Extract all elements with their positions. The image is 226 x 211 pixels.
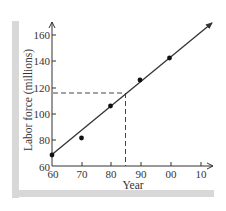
chart: 60 80 100 120 140 160 60 70 80 90 00 10 … [0, 0, 226, 211]
y-tick-label: 80 [39, 134, 51, 146]
y-ticks [52, 35, 56, 140]
y-tick-labels: 60 80 100 120 140 160 [34, 29, 51, 173]
x-axis-title: Year [122, 179, 143, 191]
y-tick-label: 120 [34, 82, 51, 94]
y-axis-title: Labor force (millions) [22, 49, 35, 151]
x-tick-label: 80 [106, 168, 118, 180]
x-ticks [82, 162, 201, 166]
y-tick-label: 140 [34, 55, 51, 67]
data-point-1980 [108, 104, 113, 109]
x-tick-label: 60 [48, 168, 60, 180]
regression-line [52, 23, 212, 155]
y-tick-label: 160 [34, 29, 51, 41]
y-tick-label: 100 [34, 108, 51, 120]
x-tick-label: 70 [77, 168, 89, 180]
data-point-1970 [79, 136, 84, 141]
data-point-1990 [138, 78, 143, 83]
data-point-1960 [50, 153, 55, 158]
x-tick-label: 10 [196, 168, 208, 180]
data-point-2000 [167, 56, 172, 61]
x-tick-label: 00 [166, 168, 178, 180]
